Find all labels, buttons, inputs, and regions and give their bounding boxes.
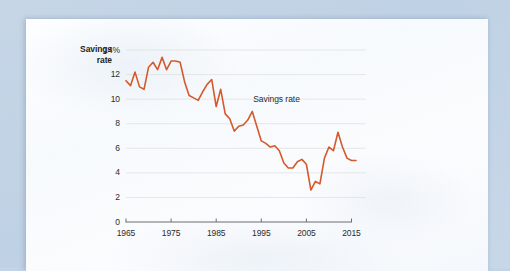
series-label-savings-rate: Savings rate bbox=[253, 94, 300, 104]
figure-card: Savings rate 02468101214% 19651975198519… bbox=[26, 19, 488, 271]
y-tick-label: 6 bbox=[94, 143, 120, 153]
x-tick-marks-group bbox=[126, 219, 351, 223]
x-tick-label: 2015 bbox=[331, 228, 371, 238]
y-tick-label: 14% bbox=[94, 45, 120, 55]
y-tick-label: 8 bbox=[94, 118, 120, 128]
savings-rate-line-chart: Savings rate 02468101214% 19651975198519… bbox=[26, 19, 488, 271]
y-tick-label: 10 bbox=[94, 94, 120, 104]
y-tick-label: 12 bbox=[94, 69, 120, 79]
gridlines-group bbox=[126, 50, 366, 197]
y-tick-label: 0 bbox=[94, 217, 120, 227]
x-tick-label: 1985 bbox=[196, 228, 236, 238]
y-tick-label: 4 bbox=[94, 167, 120, 177]
x-tick-label: 1965 bbox=[106, 228, 146, 238]
y-tick-label: 2 bbox=[94, 192, 120, 202]
x-tick-label: 2005 bbox=[286, 228, 326, 238]
x-tick-label: 1995 bbox=[241, 228, 281, 238]
x-tick-label: 1975 bbox=[151, 228, 191, 238]
